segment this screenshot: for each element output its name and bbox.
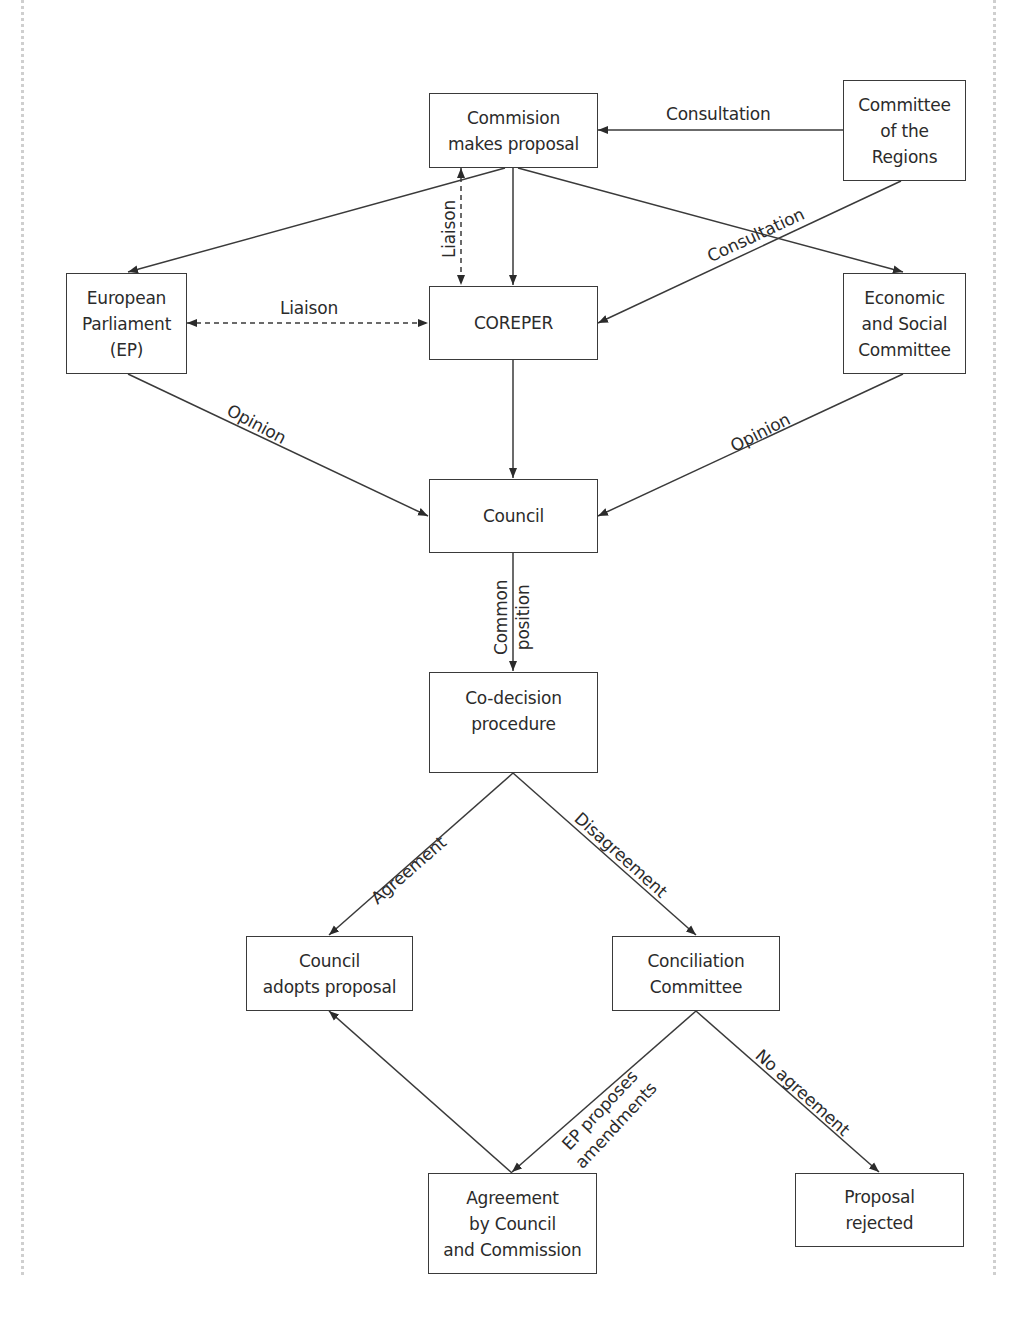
node-co-decision: Co-decisionprocedure	[429, 672, 598, 773]
node-label-line: COREPER	[474, 310, 553, 336]
node-label-line: Commision	[467, 105, 560, 131]
edge-label-regions-to-commission: Consultation	[666, 104, 771, 124]
node-proposal-rejected: Proposalrejected	[795, 1173, 964, 1247]
node-agreement-council-commission: Agreementby Counciland Commission	[428, 1173, 597, 1274]
node-label-line: rejected	[846, 1210, 914, 1236]
node-label-line: of the	[880, 118, 929, 144]
node-label-line: Committee	[650, 974, 743, 1000]
edge-label-line: Common	[490, 580, 512, 655]
node-label-line: Conciliation	[647, 948, 744, 974]
node-label-line: Economic	[864, 285, 945, 311]
node-label-line: and Social	[862, 311, 948, 337]
node-label-line: makes proposal	[448, 131, 579, 157]
node-label-line: Co-decision	[465, 685, 562, 711]
edge-agreement-to-council-adopts	[329, 1011, 512, 1173]
edge-label-common-position: Common position	[490, 580, 534, 655]
edge-layer	[0, 0, 1036, 1340]
node-european-parliament: EuropeanParliament(EP)	[66, 273, 187, 374]
node-label-line: Committee	[858, 92, 951, 118]
node-label-line: and Commission	[443, 1237, 581, 1263]
node-economic-social-committee: Economicand SocialCommittee	[843, 273, 966, 374]
node-council: Council	[429, 479, 598, 553]
node-label-line: Parliament	[82, 311, 171, 337]
node-council-adopts: Counciladopts proposal	[246, 936, 413, 1011]
edge-label-ep-coreper-liaison: Liaison	[280, 298, 338, 318]
node-label-line: Council	[483, 503, 544, 529]
edge-label-commission-coreper-liaison: Liaison	[439, 200, 459, 258]
node-label-line: Proposal	[844, 1184, 915, 1210]
node-label-line: by Council	[469, 1211, 556, 1237]
node-label-line: procedure	[471, 711, 555, 737]
node-label-line: European	[87, 285, 166, 311]
node-label-line: Regions	[872, 144, 938, 170]
node-conciliation: ConciliationCommittee	[612, 936, 780, 1011]
node-label-line: adopts proposal	[263, 974, 396, 1000]
node-commission: Commisionmakes proposal	[429, 93, 598, 168]
node-label-line: Agreement	[466, 1185, 559, 1211]
node-label-line: (EP)	[110, 337, 143, 363]
diagram-canvas: Commisionmakes proposalCommitteeof theRe…	[0, 0, 1036, 1340]
node-label-line: Council	[299, 948, 360, 974]
node-coreper: COREPER	[429, 286, 598, 360]
node-label-line: Committee	[858, 337, 951, 363]
node-committee-regions: Committeeof theRegions	[843, 80, 966, 181]
edge-label-line: position	[512, 580, 534, 655]
